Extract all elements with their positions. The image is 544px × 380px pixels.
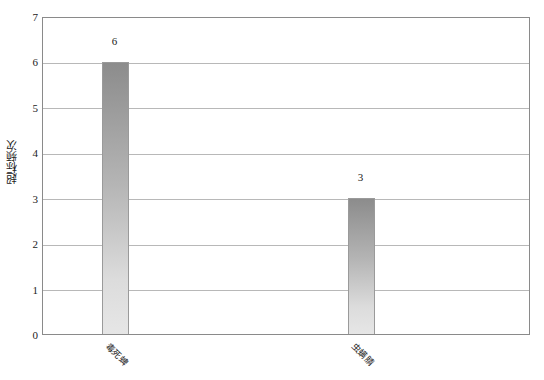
y-tick-2: 2 <box>26 238 38 250</box>
value-label-1: 6 <box>101 35 128 47</box>
value-label-2: 3 <box>347 171 374 183</box>
bar-chlorfenapyr <box>348 198 375 334</box>
x-label-2: 虫螨腈 <box>349 340 377 368</box>
y-axis-title: 超标频次 <box>4 140 18 184</box>
plot-area <box>42 17 530 335</box>
y-tick-7: 7 <box>26 11 38 23</box>
y-tick-3: 3 <box>26 193 38 205</box>
y-tick-1: 1 <box>26 284 38 296</box>
y-tick-5: 5 <box>26 102 38 114</box>
y-tick-0: 0 <box>26 329 38 341</box>
x-label-1: 毒死蜱 <box>103 340 131 368</box>
bar-chlorpyrifos <box>102 62 129 334</box>
y-tick-6: 6 <box>26 56 38 68</box>
y-tick-4: 4 <box>26 147 38 159</box>
